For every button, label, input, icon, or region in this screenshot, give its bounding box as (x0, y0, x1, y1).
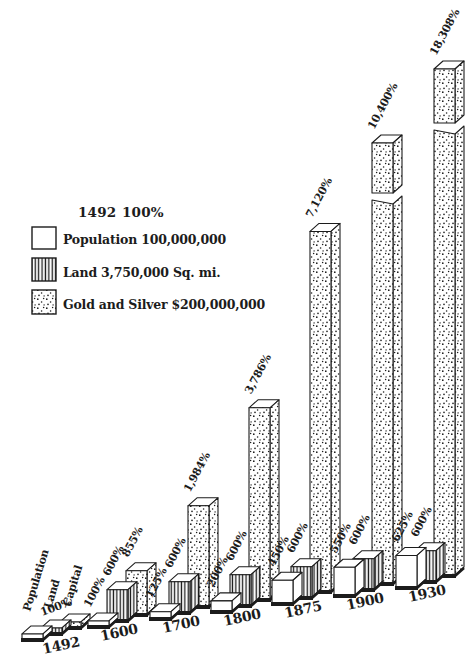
bar-front-lower (434, 130, 455, 575)
bar-group-1492: 1492100%PopulationLandCapital (20, 548, 90, 657)
dotted-swatch (32, 290, 56, 314)
bar-side (209, 498, 218, 606)
bar-front (272, 580, 293, 603)
value-label: 600% (162, 535, 189, 570)
bar-side (455, 61, 464, 123)
plain-swatch (32, 227, 56, 249)
chart-canvas: 1492 100% Population 100,000,000 Land 3,… (0, 0, 475, 664)
bar-group-1875: 7,120%600%450%1875 (265, 175, 340, 621)
value-label: 100% (81, 574, 108, 609)
bar-front-lower (372, 200, 393, 583)
bar-population-1875 (271, 572, 302, 604)
bar-front (334, 567, 355, 595)
scanned-chart-page: 1492 100% Population 100,000,000 Land 3,… (0, 0, 475, 664)
bar-capital-1900 (371, 135, 402, 584)
bar-population-1900 (333, 559, 364, 596)
legend-base-pct: 100% (122, 204, 164, 220)
bar-side (270, 400, 279, 599)
legend-label-land: Land 3,750,000 Sq. mi. (63, 265, 220, 280)
value-label: 7,120% (303, 175, 335, 220)
value-label: 600% (100, 543, 127, 578)
value-label: 3,786% (242, 351, 274, 396)
bars-layer: 1492100%PopulationLandCapital855%600%100… (20, 6, 464, 657)
bar-front (211, 601, 232, 611)
value-label: 10,400% (365, 80, 401, 131)
legend: 1492 100% Population 100,000,000 Land 3,… (32, 204, 265, 314)
striped-swatch (32, 258, 56, 281)
bar-population-1930 (395, 547, 426, 588)
bar-front (372, 143, 393, 193)
legend-label-gold-silver: Gold and Silver $200,000,000 (63, 297, 265, 312)
bar-front (434, 69, 455, 123)
bar-group-1800: 3,786%600%200%1800 (204, 351, 279, 629)
value-label: 600% (284, 520, 311, 555)
bar-group-1600: 855%600%100%1600 (81, 524, 156, 644)
legend-base-year: 1492 (78, 204, 116, 220)
bar-group-1700: 1,984%600%125%1700 (143, 449, 218, 636)
bar-population-1492 (21, 626, 52, 640)
bar-side (393, 135, 402, 193)
bar-capital-1930 (433, 61, 464, 576)
bar-front (396, 555, 417, 587)
legend-label-population: Population 100,000,000 (63, 232, 226, 247)
value-label: 1,984% (181, 449, 213, 494)
bar-front (310, 231, 331, 591)
value-label: 18,308% (427, 6, 463, 57)
bar-side-lower (455, 126, 464, 575)
value-label: 600% (223, 528, 250, 563)
